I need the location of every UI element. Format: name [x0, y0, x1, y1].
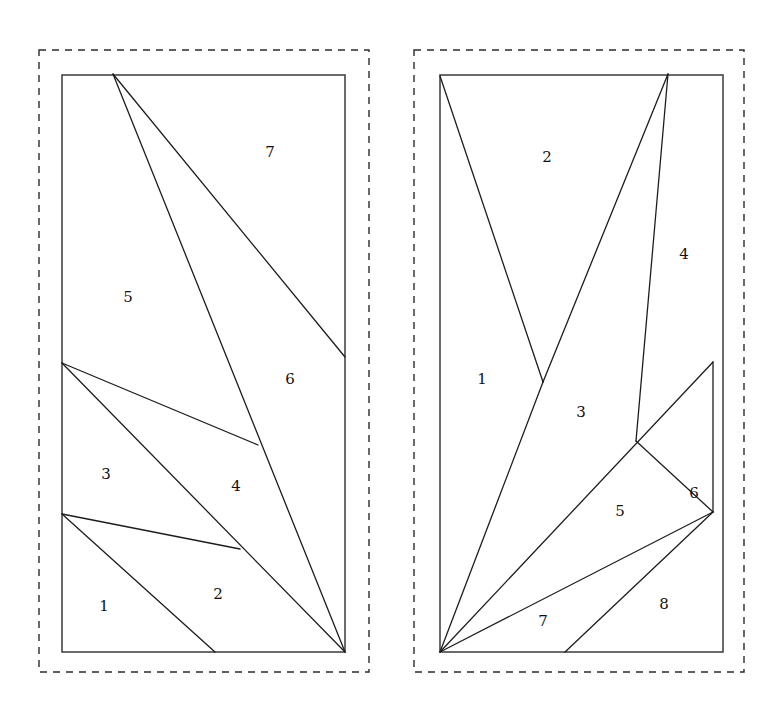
- left-region-label-1: 1: [99, 597, 109, 615]
- right-region-label-6: 6: [689, 484, 699, 502]
- left-region-label-6: 6: [285, 370, 295, 388]
- right-panel-rectangle: [440, 75, 723, 652]
- right-region-label-2: 2: [542, 148, 552, 166]
- right-region-label-4: 4: [679, 245, 689, 263]
- left-region-label-2: 2: [213, 585, 223, 603]
- left-panel-rectangle: [62, 75, 345, 652]
- right-region-label-5: 5: [615, 502, 625, 520]
- diagram-canvas: 1 2 3 4 5 6 7 1 2 3 4 5 6 7: [0, 0, 763, 715]
- right-region-label-1: 1: [477, 370, 487, 388]
- left-panel: 1 2 3 4 5 6 7: [39, 50, 369, 672]
- right-region-label-7: 7: [538, 612, 548, 630]
- left-region-label-4: 4: [231, 477, 241, 495]
- left-region-label-7: 7: [265, 143, 275, 161]
- left-region-label-5: 5: [123, 288, 133, 306]
- partition-diagrams-svg: 1 2 3 4 5 6 7 1 2 3 4 5 6 7: [0, 0, 763, 715]
- left-region-label-3: 3: [101, 465, 111, 483]
- right-panel: 1 2 3 4 5 6 7 8: [414, 50, 744, 672]
- right-region-label-3: 3: [576, 403, 586, 421]
- right-region-label-8: 8: [659, 595, 669, 613]
